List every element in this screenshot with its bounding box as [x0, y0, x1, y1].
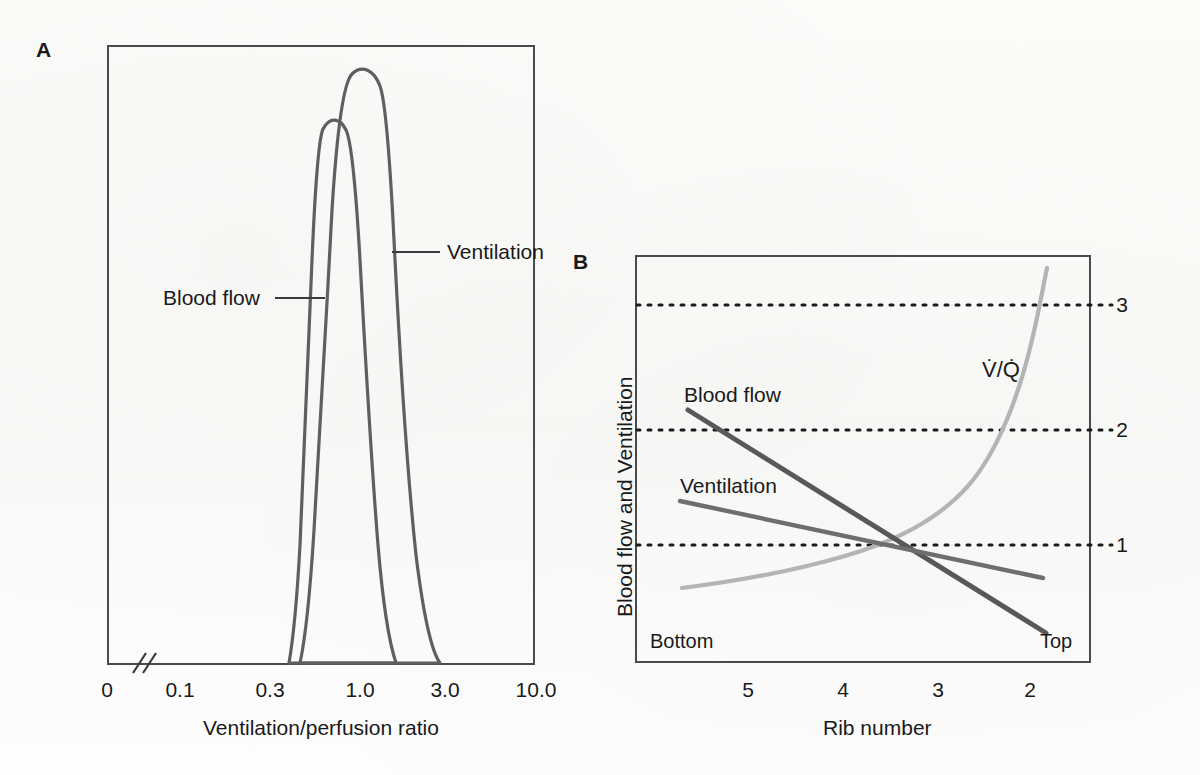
panel-b-blood-flow-line	[688, 410, 1046, 633]
panel-b-x-tick-5: 5	[731, 678, 765, 702]
panel-b-x-tick-4: 4	[826, 678, 860, 702]
panel-b-series	[0, 0, 1200, 775]
panel-b-x-axis-title: Rib number	[823, 716, 932, 740]
panel-b-y-axis-title: Blood flow and Ventilation	[613, 376, 637, 617]
panel-b-x-tick-2: 2	[1013, 678, 1047, 702]
panel-b-ventilation-line	[680, 501, 1043, 578]
panel-b-y-tick-3: 3	[1105, 293, 1139, 317]
panel-b-vq-ratio-label: V̇/Q̇	[982, 357, 1020, 383]
panel-b-y-tick-2: 2	[1105, 418, 1139, 442]
figure-container: A Ventilation Blood flow 0 0.1 0.3 1.0 3…	[0, 0, 1200, 775]
panel-b-bottom-label: Bottom	[650, 630, 713, 653]
panel-b-x-tick-3: 3	[921, 678, 955, 702]
panel-b-blood-flow-label: Blood flow	[684, 383, 781, 407]
panel-b-ventilation-label: Ventilation	[680, 474, 777, 498]
panel-b-top-label: Top	[1040, 630, 1072, 653]
panel-b-y-tick-1: 1	[1105, 533, 1139, 557]
